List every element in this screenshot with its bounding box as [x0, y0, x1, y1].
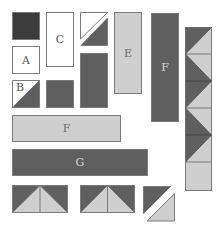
flying-geese-unit-2	[80, 185, 135, 213]
piece-f-vertical: F	[151, 13, 179, 122]
piece-f-horizontal-label: F	[63, 122, 71, 135]
piece-c: C	[46, 12, 74, 67]
piece-e: E	[114, 12, 142, 94]
separated-half-square-triangle-top	[80, 12, 108, 46]
piece-g: G	[12, 149, 148, 176]
dark-rect-piece	[80, 53, 108, 108]
flying-geese-unit-1	[12, 185, 68, 213]
separated-half-square-triangle-bottom	[143, 186, 176, 222]
piece-f-horizontal: F	[12, 115, 121, 142]
piece-g-label: G	[76, 156, 85, 169]
darkest-square-piece	[12, 12, 40, 40]
piece-f-vertical-label: F	[161, 61, 169, 74]
piece-a: A	[12, 46, 40, 74]
piece-a-label: A	[22, 54, 30, 67]
dark-square-piece	[46, 80, 74, 108]
piece-c-label: C	[56, 33, 64, 46]
piece-b-label: B	[16, 81, 24, 94]
zigzag-column	[185, 27, 212, 191]
piece-e-label: E	[124, 47, 132, 60]
